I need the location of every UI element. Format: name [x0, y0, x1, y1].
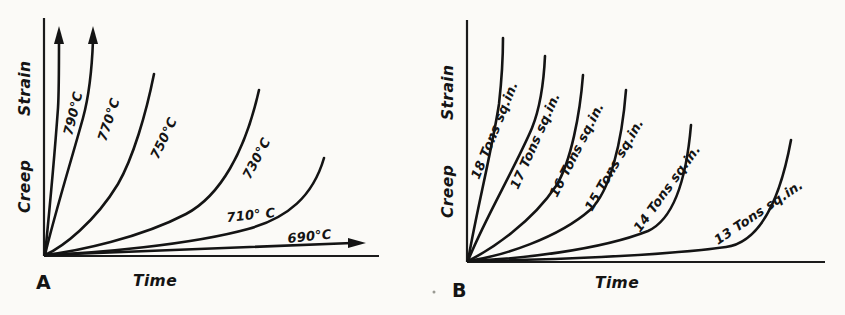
panel-b-y-axis-label-creep: Creep	[439, 165, 457, 218]
panel-b-label-13-tons: 13 Tons sq.in.	[711, 177, 805, 247]
panel-b: 18 Tons sq.in. 17 Tons sq.in. 16 Tons sq…	[433, 20, 826, 301]
panel-a-curve-710c	[45, 158, 324, 255]
panel-b-x-axis-label: Time	[595, 274, 639, 292]
panel-b-label-14-tons: 14 Tons sq.in.	[630, 142, 703, 235]
panel-a: 790°C 770°C 750°C 730°C 710° C 690°C Str…	[16, 18, 379, 293]
panel-a-arrowhead-790c	[54, 26, 64, 44]
panel-a-x-axis-label: Time	[133, 272, 177, 290]
scan-speck	[433, 291, 436, 294]
panel-a-label-770c: 770°C	[95, 96, 123, 143]
panel-a-label-790c: 790°C	[60, 90, 85, 137]
panel-a-label-730c: 730°C	[239, 135, 273, 181]
panel-a-curve-690c	[45, 243, 352, 255]
panel-a-label-750c: 750°C	[147, 115, 180, 162]
figure-canvas: 790°C 770°C 750°C 730°C 710° C 690°C Str…	[0, 0, 845, 315]
panel-a-arrowhead-690c	[348, 238, 366, 248]
panel-a-y-axis-label-strain: Strain	[16, 61, 34, 116]
creep-curves-figure: 790°C 770°C 750°C 730°C 710° C 690°C Str…	[0, 0, 845, 315]
panel-a-curve-750c	[45, 74, 154, 255]
panel-a-letter: A	[36, 271, 51, 293]
panel-a-arrowhead-770c	[88, 26, 98, 44]
panel-b-letter: B	[452, 279, 466, 301]
panel-a-curve-770c	[45, 40, 93, 255]
panel-a-y-axis-label-creep: Creep	[16, 160, 34, 213]
panel-b-y-axis-label-strain: Strain	[439, 65, 457, 120]
